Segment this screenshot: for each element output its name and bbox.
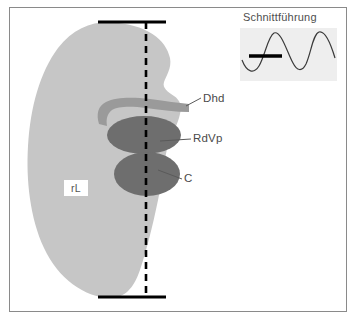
- label-organ-rl: rL: [64, 180, 88, 196]
- inset-waveform-curve: [242, 32, 335, 71]
- inset-panel: [240, 28, 337, 81]
- label-rdvp: RdVp: [193, 132, 223, 144]
- inset-title: Schnittführung: [243, 11, 317, 23]
- rdvp-structure: [107, 116, 181, 154]
- label-dhd: Dhd: [203, 92, 225, 104]
- label-c: C: [184, 172, 193, 184]
- dhd-leader-line: [186, 98, 201, 106]
- figure-root: Dhd RdVp C rL Schnittführung: [0, 0, 356, 321]
- inset-canvas: [240, 28, 337, 81]
